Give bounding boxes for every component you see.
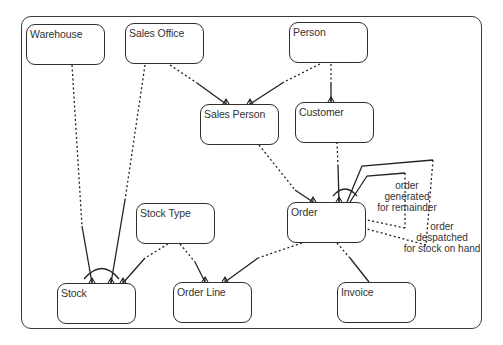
entity-label: Sales Person (204, 108, 265, 120)
rel-salesoffice-stock-mandatory (111, 200, 125, 283)
entity-sales-office[interactable]: Sales Office (125, 23, 204, 64)
entity-label: Stock Type (140, 207, 191, 219)
note-order-despatched-for-stock: order despatched for stock on hand (399, 221, 485, 254)
entity-label: Sales Office (129, 27, 184, 39)
entity-order[interactable]: Order (287, 202, 366, 243)
entity-stock[interactable]: Stock (57, 283, 136, 324)
note-line: for remainder (372, 202, 442, 213)
entity-sales-person[interactable]: Sales Person (200, 104, 279, 145)
rel-warehouse-stock-mandatory (82, 226, 92, 283)
rel-salesoffice-stock-optional (125, 65, 145, 200)
note-line: order (372, 180, 442, 191)
note-line: despatched (399, 232, 485, 243)
entity-person[interactable]: Person (289, 22, 368, 63)
entity-label: Customer (299, 106, 344, 118)
entity-warehouse[interactable]: Warehouse (26, 24, 105, 65)
order-exclusive-arc (333, 189, 357, 196)
entity-label: Warehouse (30, 28, 82, 40)
entity-label: Order Line (177, 286, 226, 298)
entity-label: Stock (61, 287, 87, 299)
note-order-generated-for-remainder: order generated for remainder (372, 180, 442, 213)
note-line: for stock on hand (399, 243, 485, 254)
entity-invoice[interactable]: Invoice (337, 282, 416, 323)
note-line: generated (372, 191, 442, 202)
rel-warehouse-stock-optional (72, 65, 82, 226)
entity-stock-type[interactable]: Stock Type (136, 203, 215, 244)
entity-customer[interactable]: Customer (295, 102, 374, 143)
entity-label: Order (291, 206, 317, 218)
entity-label: Invoice (341, 286, 374, 298)
entity-label: Person (293, 26, 326, 38)
note-line: order (399, 221, 485, 232)
er-diagram: Warehouse Sales Office Person Sales Pers… (0, 0, 503, 345)
entity-order-line[interactable]: Order Line (173, 282, 252, 323)
